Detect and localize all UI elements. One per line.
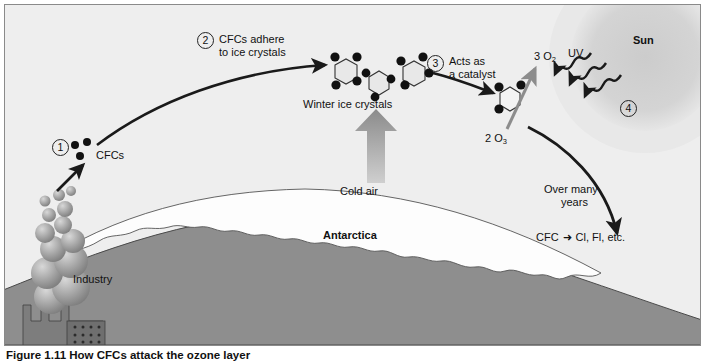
oxygen-output-label: 3 O2: [534, 50, 556, 64]
ozone-diagram-figure: 1 CFCs 2 CFCs adhere to ice crystals Win…: [0, 0, 707, 364]
diagram-frame: 1 CFCs 2 CFCs adhere to ice crystals Win…: [4, 4, 701, 346]
ice-crystal-cluster: [330, 52, 433, 101]
diagram-canvas: [5, 5, 700, 345]
ozone-input-text: 2 O: [485, 132, 503, 144]
over-many-years-line2: years: [561, 196, 588, 208]
cfc-breakdown-label: CFC➜Cl, Fl, etc.: [536, 231, 625, 243]
step-1-marker: 1: [52, 139, 69, 156]
cfc-molecule-dots: [71, 138, 91, 160]
step-2-label-line1: CFCs adhere: [219, 33, 284, 45]
smoke-plume: [31, 186, 90, 314]
step-3-label-line2: a catalyst: [449, 68, 495, 80]
cold-air-arrow: [355, 109, 397, 183]
antarctica-label: Antarctica: [323, 229, 377, 241]
step-3-label-line1: Acts as: [449, 55, 485, 67]
step-4-marker: 4: [620, 100, 637, 117]
cold-air-label: Cold air: [340, 185, 378, 197]
figure-caption: Figure 1.11 How CFCs attack the ozone la…: [6, 349, 250, 361]
ozone-input-label: 2 O3: [485, 132, 507, 146]
step-3-marker: 3: [427, 55, 444, 72]
oxygen-output-subscript: 2: [552, 55, 556, 64]
cfcs-label: CFCs: [96, 149, 124, 161]
ozone-input-subscript: 3: [503, 137, 507, 146]
winter-ice-crystals-label: Winter ice crystals: [303, 98, 392, 110]
sun-label: Sun: [633, 34, 654, 46]
cfc-breakdown-right: Cl, Fl, etc.: [576, 231, 626, 243]
step2-arrow: [97, 65, 325, 145]
ice-crystal: [330, 52, 361, 89]
uv-label: UV: [568, 47, 583, 59]
oxygen-output-text: 3 O: [534, 50, 552, 62]
step-2-marker: 2: [197, 32, 214, 49]
cfc-breakdown-left: CFC: [536, 231, 559, 243]
arrow-right-icon: ➜: [563, 231, 572, 243]
industry-label: Industry: [73, 273, 112, 285]
over-many-years-line1: Over many: [544, 183, 598, 195]
ice-crystal: [362, 69, 396, 102]
step-2-label-line2: to ice crystals: [219, 46, 286, 58]
